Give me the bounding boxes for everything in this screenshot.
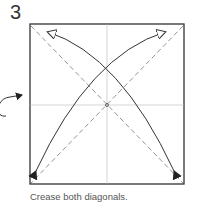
turn-over-icon (0, 95, 22, 116)
crease-diagram (0, 0, 197, 190)
step-caption: Crease both diagonals. (30, 191, 128, 202)
